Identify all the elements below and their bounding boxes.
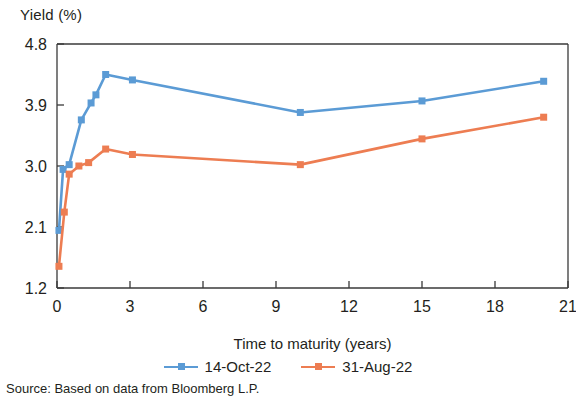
y-tick-group: 1.22.13.03.94.8 xyxy=(25,36,64,297)
y-tick-label: 3.9 xyxy=(25,97,47,114)
x-tick-label: 21 xyxy=(559,298,576,315)
series-marker-1 xyxy=(85,159,92,166)
legend-swatch-1 xyxy=(301,361,335,373)
series-marker-0 xyxy=(66,161,73,168)
y-tick-label: 1.2 xyxy=(25,280,47,297)
x-tick-label: 18 xyxy=(486,298,504,315)
series-marker-1 xyxy=(540,114,547,121)
chart-plot-area: 1.22.13.03.94.8 036912151821 Time to mat… xyxy=(0,0,576,404)
y-tick-label: 4.8 xyxy=(25,36,47,53)
legend-item-0[interactable]: 14-Oct-22 xyxy=(164,358,272,375)
series-marker-0 xyxy=(297,109,304,116)
x-axis-title: Time to maturity (years) xyxy=(234,335,392,352)
series-marker-1 xyxy=(129,151,136,158)
legend-item-1[interactable]: 31-Aug-22 xyxy=(301,358,412,375)
y-tick-label: 2.1 xyxy=(25,219,47,236)
y-tick-label: 3.0 xyxy=(25,158,47,175)
series-marker-1 xyxy=(102,146,109,153)
series-marker-1 xyxy=(66,171,73,178)
source-note: Source: Based on data from Bloomberg L.P… xyxy=(6,381,259,396)
x-tick-label: 15 xyxy=(413,298,431,315)
series-marker-1 xyxy=(55,263,62,270)
series-marker-0 xyxy=(78,116,85,123)
chart-legend: 14-Oct-22 31-Aug-22 xyxy=(0,358,576,375)
series-marker-0 xyxy=(129,76,136,83)
series-line-1 xyxy=(59,117,544,266)
x-tick-label: 3 xyxy=(126,298,135,315)
x-tick-label: 6 xyxy=(199,298,208,315)
series-marker-0 xyxy=(88,99,95,106)
series-marker-0 xyxy=(60,166,67,173)
series-marker-0 xyxy=(102,71,109,78)
series-group xyxy=(55,71,547,270)
series-marker-0 xyxy=(92,91,99,98)
legend-swatch-0 xyxy=(164,361,198,373)
series-marker-1 xyxy=(297,161,304,168)
legend-label-0: 14-Oct-22 xyxy=(205,358,272,375)
x-tick-group: 036912151821 xyxy=(53,281,576,315)
series-marker-1 xyxy=(61,209,68,216)
x-tick-label: 9 xyxy=(272,298,281,315)
x-tick-label: 12 xyxy=(340,298,358,315)
x-axis-title-group: Time to maturity (years) xyxy=(234,335,392,352)
x-tick-label: 0 xyxy=(53,298,62,315)
series-marker-1 xyxy=(419,135,426,142)
series-marker-0 xyxy=(419,97,426,104)
series-marker-1 xyxy=(75,163,82,170)
yield-curve-figure: Yield (%) 1.22.13.03.94.8 036912151821 T… xyxy=(0,0,576,404)
legend-label-1: 31-Aug-22 xyxy=(342,358,412,375)
series-marker-0 xyxy=(540,78,547,85)
